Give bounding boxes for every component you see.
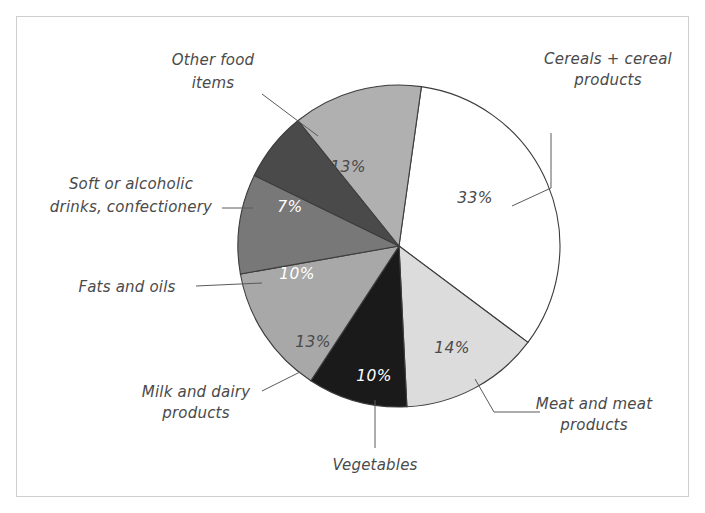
- pie-label-fats: Fats and oils: [78, 278, 175, 296]
- pie-label-other-line1: Other food: [172, 51, 255, 69]
- pie-label-drinks-line2: drinks, confectionery: [50, 198, 213, 216]
- pie-label-cereals-line2: products: [573, 71, 641, 89]
- pie-label-other-line2: items: [192, 74, 235, 92]
- pie-chart-svg: 33% 14% 10% 13% 10% 7% 13% Cereals + cer…: [0, 0, 705, 513]
- pie-value-drinks: 7%: [277, 198, 302, 216]
- pie-value-milk: 13%: [295, 333, 331, 351]
- pie-label-meat-line2: products: [559, 416, 627, 434]
- pie-value-fats: 10%: [279, 265, 315, 283]
- pie-chart-figure: 33% 14% 10% 13% 10% 7% 13% Cereals + cer…: [0, 0, 705, 513]
- pie-label-milk-line1: Milk and dairy: [142, 383, 251, 401]
- pie-label-cereals-line1: Cereals + cereal: [544, 50, 672, 68]
- pie-label-milk-line2: products: [161, 404, 229, 422]
- leader-line-milk: [262, 372, 300, 391]
- pie-label-vegetables: Vegetables: [332, 456, 417, 474]
- pie-value-meat: 14%: [434, 339, 470, 357]
- pie-label-meat-line1: Meat and meat: [536, 395, 653, 413]
- pie-value-vegetables: 10%: [356, 367, 392, 385]
- pie-value-cereals: 33%: [457, 189, 493, 207]
- leader-line-meat: [475, 379, 540, 412]
- pie-value-other: 13%: [330, 158, 366, 176]
- pie-label-drinks-line1: Soft or alcoholic: [69, 175, 194, 193]
